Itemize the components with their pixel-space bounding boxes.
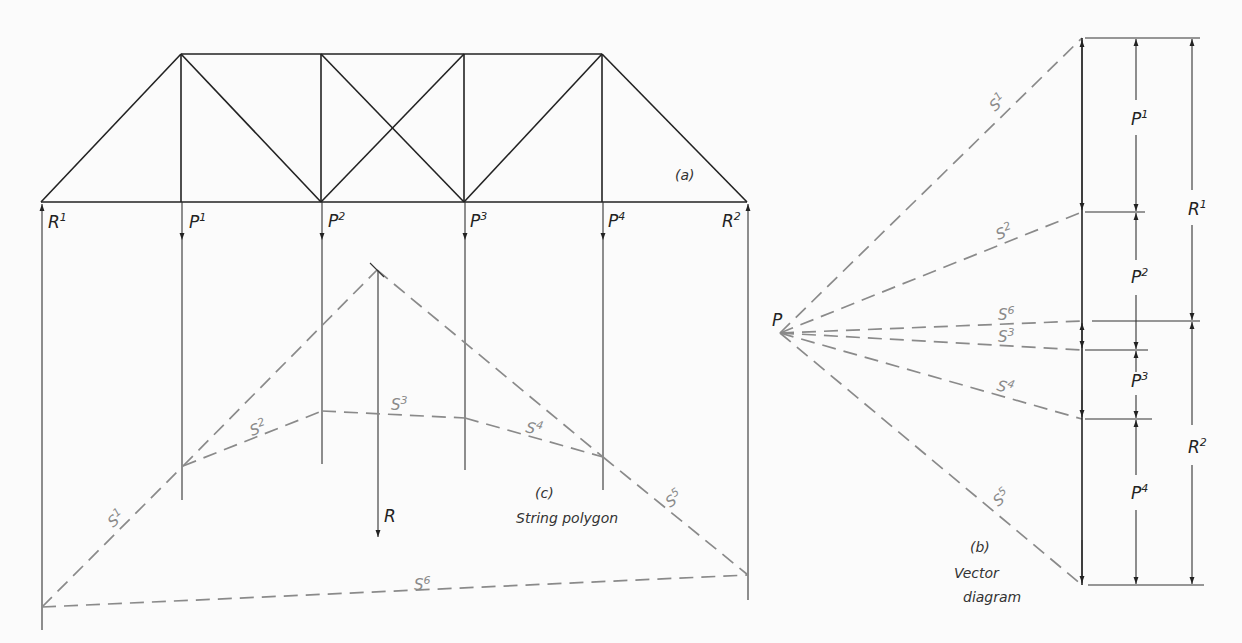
ray-s5-label: S5 (988, 484, 1013, 510)
ray-s3 (780, 333, 1082, 350)
lines-of-action (42, 202, 748, 630)
s4-label: S4 (524, 416, 544, 439)
string-s5 (603, 457, 748, 575)
string-panel-label: (c) (535, 485, 554, 501)
ray-s1 (780, 38, 1082, 333)
ray-s3-label: S3 (998, 326, 1015, 346)
vector-panel-label: (b) (970, 539, 990, 555)
vector-panel-caption-1: Vector (954, 565, 1000, 581)
funicular-polygon-figure: (a) R1 P1 P2 P3 P4 R2 R S1 (0, 0, 1242, 643)
truss-panel-label: (a) (675, 167, 695, 183)
ray-s4-label: S4 (995, 375, 1016, 399)
vector-panel-caption-2: diagram (963, 589, 1021, 605)
diagonal-1 (181, 54, 321, 202)
s3-label: S3 (391, 394, 408, 414)
string-s1 (42, 466, 183, 607)
r1-label: R1 (48, 211, 67, 232)
ray-s5 (780, 333, 1082, 585)
dim-p3-label: P3 (1131, 370, 1148, 391)
r2-label: R2 (722, 210, 741, 231)
string-s5-extension (377, 270, 603, 457)
p1-label: P1 (189, 211, 206, 232)
vector-labels: P S1 S2 S6 S3 S4 S5 P1 P2 P3 P4 R1 R2 (b… (772, 89, 1207, 605)
dim-p4-label: P4 (1131, 482, 1148, 503)
string-s6-closing (42, 575, 748, 607)
dim-p1-label: P1 (1131, 108, 1148, 129)
truss-labels: R1 P1 P2 P3 P4 R2 R (48, 210, 741, 526)
p3-label: P3 (470, 210, 487, 231)
p4-label: P4 (608, 210, 625, 231)
string-labels: S1 S2 S3 S4 S5 S6 (c) String polygon (103, 394, 686, 594)
s1-label: S1 (103, 505, 129, 531)
string-s1-extension (183, 270, 377, 466)
ray-s4 (780, 333, 1082, 419)
ray-s6 (780, 321, 1082, 333)
dim-r1-label: R1 (1188, 198, 1207, 219)
s2-label: S2 (247, 415, 269, 439)
pole-label: P (772, 310, 783, 330)
s6-label: S6 (414, 574, 431, 594)
ray-s2 (780, 212, 1082, 333)
dim-r2-label: R2 (1188, 436, 1207, 457)
p2-label: P2 (328, 210, 345, 231)
string-polygon (42, 263, 748, 607)
truss: (a) (41, 54, 747, 202)
ray-s6-label: S6 (998, 304, 1015, 324)
dim-p2-label: P2 (1131, 266, 1148, 287)
string-panel-caption: String polygon (516, 510, 618, 526)
left-end-post (41, 54, 181, 202)
resultant-label: R (384, 506, 396, 526)
diagonal-4 (464, 54, 602, 202)
